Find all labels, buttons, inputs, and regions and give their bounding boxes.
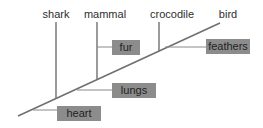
cladogram: shark mammal crocodile bird heart lungs … [0, 0, 263, 128]
trait-box-feathers: feathers [206, 39, 250, 54]
trait-box-fur: fur [112, 40, 140, 55]
main-trunk-line [18, 23, 220, 116]
taxon-label-shark: shark [43, 8, 70, 20]
trait-box-lungs: lungs [112, 83, 156, 98]
taxon-label-mammal: mammal [84, 8, 126, 20]
taxon-label-crocodile: crocodile [150, 8, 194, 20]
taxon-label-bird: bird [219, 8, 237, 20]
trait-box-heart: heart [57, 106, 101, 121]
